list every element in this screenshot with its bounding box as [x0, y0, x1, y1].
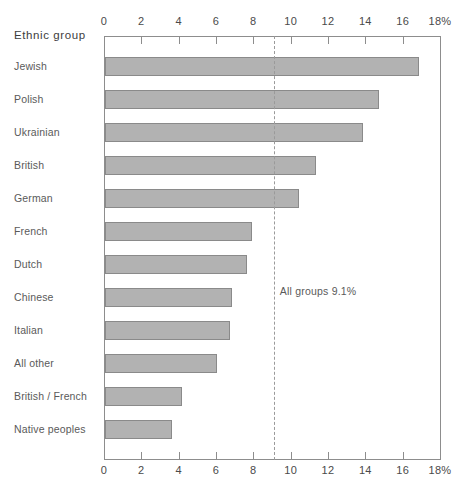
- reference-line-annotation: All groups 9.1%: [280, 285, 357, 297]
- x-axis-tick-label: 6: [213, 464, 219, 476]
- category-label: German: [14, 193, 53, 204]
- x-axis-tick-top: [328, 37, 329, 44]
- x-axis-tick-label: 4: [175, 15, 181, 27]
- category-label: Polish: [14, 94, 44, 105]
- x-axis-tick-bottom: [328, 452, 329, 459]
- category-label: All other: [14, 358, 54, 369]
- bar: [105, 354, 217, 373]
- bar: [105, 123, 363, 142]
- category-label: Native peoples: [14, 424, 86, 435]
- x-axis-tick-label: 10: [284, 15, 297, 27]
- category-label: British / French: [14, 391, 87, 402]
- category-label: Italian: [14, 325, 43, 336]
- x-axis-tick-label: 4: [175, 464, 181, 476]
- x-axis-tick-label: 2: [138, 464, 144, 476]
- x-axis-tick-label: 0: [101, 464, 107, 476]
- bar: [105, 420, 172, 439]
- x-axis-tick-bottom: [253, 452, 254, 459]
- x-axis-tick-bottom: [403, 452, 404, 459]
- x-axis-tick-bottom: [365, 452, 366, 459]
- x-axis-tick-label: 16: [396, 15, 409, 27]
- x-axis-tick-label: 0: [101, 15, 107, 27]
- x-axis-tick-bottom: [440, 452, 441, 459]
- x-axis-tick-top: [365, 37, 366, 44]
- x-axis-tick-label: 16: [396, 464, 409, 476]
- axis-line-bottom: [104, 459, 441, 460]
- category-label: British: [14, 160, 44, 171]
- x-axis-tick-label: 12: [322, 15, 335, 27]
- x-axis-tick-bottom: [216, 452, 217, 459]
- x-axis-tick-bottom: [291, 452, 292, 459]
- category-label: Dutch: [14, 259, 42, 270]
- y-axis-title: Ethnic group: [14, 29, 86, 41]
- bar: [105, 222, 252, 241]
- x-axis-tick-top: [440, 37, 441, 44]
- x-axis-tick-label: 18%: [429, 464, 452, 476]
- bar: [105, 90, 379, 109]
- x-axis-tick-top: [403, 37, 404, 44]
- category-label-column: Ethnic group JewishPolishUkrainianBritis…: [0, 0, 100, 499]
- x-axis-tick-top: [291, 37, 292, 44]
- bar: [105, 321, 230, 340]
- x-axis-tick-label: 6: [213, 15, 219, 27]
- x-axis-tick-label: 8: [250, 464, 256, 476]
- plot-area: All groups 9.1%: [104, 36, 441, 460]
- axis-line-right: [440, 36, 441, 460]
- x-axis-tick-label: 12: [322, 464, 335, 476]
- x-axis-tick-top: [253, 37, 254, 44]
- x-axis-tick-top: [216, 37, 217, 44]
- x-axis-tick-bottom: [104, 452, 105, 459]
- category-label: Ukrainian: [14, 127, 60, 138]
- category-label: Chinese: [14, 292, 54, 303]
- ethnic-group-bar-chart: Ethnic group JewishPolishUkrainianBritis…: [0, 0, 472, 499]
- category-label: Jewish: [14, 61, 47, 72]
- category-label: French: [14, 226, 48, 237]
- bar: [105, 387, 182, 406]
- x-axis-tick-bottom: [179, 452, 180, 459]
- bar: [105, 189, 299, 208]
- bar: [105, 288, 232, 307]
- x-axis-tick-label: 2: [138, 15, 144, 27]
- x-axis-tick-label: 8: [250, 15, 256, 27]
- x-axis-tick-top: [179, 37, 180, 44]
- x-axis-tick-top: [141, 37, 142, 44]
- x-axis-tick-label: 14: [359, 464, 372, 476]
- bar: [105, 156, 316, 175]
- x-axis-tick-label: 14: [359, 15, 372, 27]
- x-axis-tick-bottom: [141, 452, 142, 459]
- x-axis-tick-top: [104, 37, 105, 44]
- bar: [105, 255, 247, 274]
- bar: [105, 57, 419, 76]
- x-axis-tick-label: 10: [284, 464, 297, 476]
- axis-line-top: [104, 36, 441, 37]
- x-axis-tick-label: 18%: [429, 15, 452, 27]
- reference-line-all-groups: [274, 36, 275, 460]
